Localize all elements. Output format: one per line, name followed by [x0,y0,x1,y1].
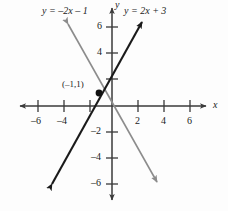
x-tick-label-4: 4 [161,115,166,126]
equation-label-right: y = 2x + 3 [124,5,166,16]
x-tick-label-neg4: –4 [57,115,67,126]
coordinate-graph: y = –2x – 1 y = 2x + 3 (–1,1) x y –6 –4 … [0,0,228,211]
y-tick-label-neg6: –6 [91,177,101,188]
x-tick-label-neg6: –6 [31,115,41,126]
intersection-point-label: (–1,1) [62,79,84,89]
y-axis-label: y [115,0,119,10]
x-axis-label: x [213,99,217,110]
y-tick-label-6: 6 [97,20,102,31]
x-tick-label-2: 2 [135,115,140,126]
graph-canvas [0,0,228,211]
x-tick-label-6: 6 [187,115,192,126]
y-tick-label-neg4: –4 [91,151,101,162]
y-tick-label-4: 4 [97,46,102,57]
intersection-point-marker [96,90,103,97]
y-tick-label-neg2: –2 [91,125,101,136]
equation-label-left: y = –2x – 1 [42,5,88,16]
